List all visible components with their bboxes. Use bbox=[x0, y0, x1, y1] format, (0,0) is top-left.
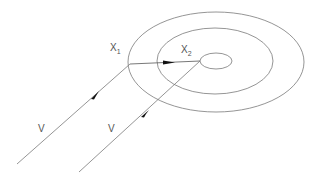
label-v-left: V bbox=[38, 123, 45, 134]
label-x2: X2 bbox=[181, 44, 192, 57]
label-x1: X1 bbox=[110, 42, 121, 55]
label-v-right: V bbox=[108, 123, 115, 134]
diagram-canvas: X1 X2 V V bbox=[0, 0, 317, 178]
inner-ellipse bbox=[200, 53, 232, 69]
right-trajectory-line bbox=[79, 61, 200, 172]
left-trajectory-line bbox=[17, 64, 130, 164]
horizontal-arrowhead-icon bbox=[163, 61, 175, 65]
left-arrowhead-icon bbox=[91, 91, 99, 100]
outer-ellipse bbox=[128, 12, 304, 112]
